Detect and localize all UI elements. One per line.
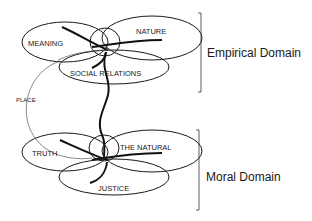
empirical-bracket [198,13,201,92]
domains-diagram: MEANING NATURE SOCIAL RELATIONS PLACE TR… [0,0,312,221]
moral-domain-group: TRUTH THE NATURAL JUSTICE [22,130,202,195]
nature-label: NATURE [136,27,166,36]
place-label: PLACE [16,97,36,103]
the-natural-label: THE NATURAL [120,143,172,152]
meaning-label: MEANING [28,39,63,48]
nature-ellipse [102,16,202,60]
center-ellipse [90,28,120,56]
strand-line [90,162,107,183]
truth-label: TRUTH [32,149,57,158]
moral-domain-label: Moral Domain [206,170,281,184]
empirical-domain-group: MEANING NATURE SOCIAL RELATIONS [22,16,202,84]
social-relations-ellipse [59,50,169,84]
justice-label: JUSTICE [98,184,129,193]
empirical-domain-label: Empirical Domain [207,46,301,60]
